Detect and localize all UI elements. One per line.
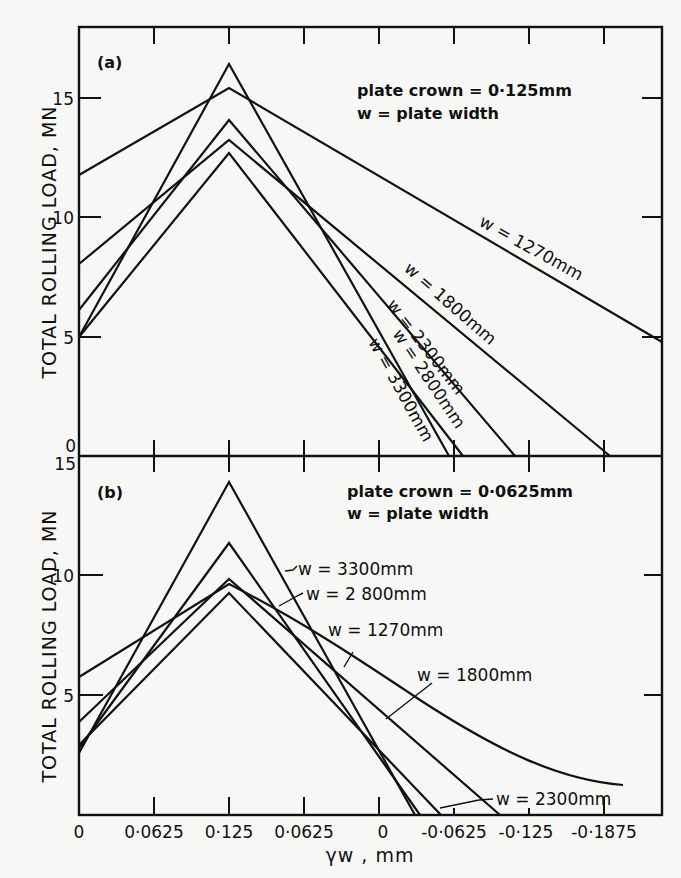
panel-a-ylabel: TOTAL ROLLING LOAD, MN	[38, 105, 60, 379]
panel-b-note-width: w = plate width	[347, 504, 489, 523]
leader-b-w2300	[440, 799, 493, 808]
series-a-w1800	[79, 140, 610, 456]
leader-b-w1800	[386, 683, 432, 719]
xtick-2: 0·125	[205, 822, 254, 842]
panel-a-note-width: w = plate width	[357, 104, 499, 123]
plot-frame	[79, 27, 662, 815]
series-b-w1800	[79, 579, 500, 815]
leader-b-w3300	[285, 566, 297, 571]
chart-svg: 15 10 5 0 TOTAL ROLLING LOAD, MN (a) pla…	[0, 0, 681, 878]
x-tick-labels: 0 0·0625 0·125 0·0625 0 -0·0625 -0·125 -…	[74, 822, 637, 842]
panel-a-tag: (a)	[97, 53, 122, 72]
xtick-5: -0·0625	[421, 822, 487, 842]
series-a-w1270	[79, 88, 662, 342]
panel-b-series	[79, 482, 623, 815]
panel-a-ytick-0: 0	[65, 436, 76, 456]
figure: 15 10 5 0 TOTAL ROLLING LOAD, MN (a) pla…	[0, 0, 681, 878]
panel-b-ytick-15: 15	[54, 454, 76, 474]
x-axis-label: γw , mm	[326, 844, 415, 866]
label-b-w2800: w = 2 800mm	[306, 584, 427, 604]
panel-b-note-crown: plate crown = 0·0625mm	[347, 482, 573, 501]
series-b-w3300	[79, 482, 415, 815]
panel-a-note-crown: plate crown = 0·125mm	[357, 81, 572, 100]
xtick-0: 0	[74, 822, 85, 842]
label-b-w1270: w = 1270mm	[328, 620, 443, 640]
xtick-7: -0·1875	[571, 822, 637, 842]
label-b-w2300: w = 2300mm	[496, 789, 611, 809]
xtick-4: 0	[378, 822, 389, 842]
panel-b-ytick-5: 5	[63, 686, 74, 706]
panel-b-ticks	[79, 575, 662, 815]
label-b-w3300: w = 3300mm	[298, 559, 413, 579]
xtick-3: 0·0625	[274, 822, 333, 842]
panel-b-ylabel: TOTAL ROLLING LOAD, MN	[38, 509, 60, 783]
label-a-w1270: w = 1270mm	[476, 211, 587, 284]
xtick-6: -0·125	[499, 822, 554, 842]
xtick-1: 0·0625	[124, 822, 183, 842]
label-b-w1800: w = 1800mm	[417, 665, 532, 685]
panel-b-tag: (b)	[97, 483, 123, 502]
panel-a-ytick-5: 5	[63, 328, 74, 348]
